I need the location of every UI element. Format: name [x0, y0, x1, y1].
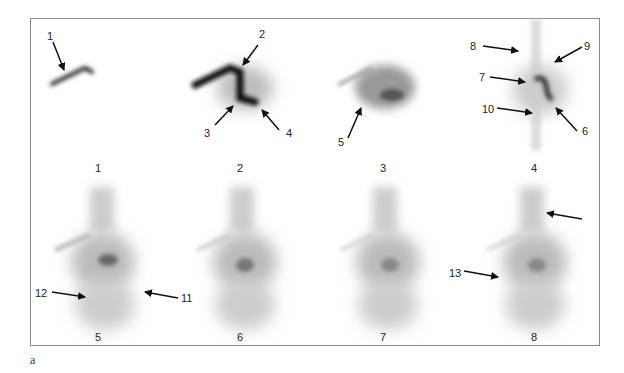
frame-number: 7	[380, 331, 386, 343]
frame-number: 1	[95, 162, 101, 174]
injected-vein-activity	[52, 68, 92, 84]
arrow-2	[243, 45, 258, 65]
annotation-label: 1	[47, 30, 53, 42]
arrow-3	[215, 106, 233, 125]
frame-number: 8	[531, 331, 537, 343]
lung-activity	[355, 65, 415, 109]
annotation-label: 11	[181, 292, 192, 304]
arrow-11	[145, 292, 178, 298]
arrow-unlabeled	[547, 213, 582, 219]
panel-label: a	[30, 353, 35, 368]
annotation-label: 8	[470, 40, 476, 52]
frame-number: 3	[380, 162, 386, 174]
frame-number: 6	[237, 331, 243, 343]
scan-frame-6	[197, 187, 277, 330]
arrow-9	[555, 47, 582, 62]
frame-number: 2	[237, 162, 243, 174]
annotation-label: 13	[449, 267, 461, 279]
lung-activity	[512, 65, 568, 115]
scintigraphy-figure: 1 2 3 4 5 6 7 8 9 10 11 12 13 1 2 3 4 5 …	[0, 0, 624, 373]
scan-frame-4	[512, 20, 568, 150]
scan-frame-8	[487, 187, 567, 330]
scan-frame-1	[52, 68, 92, 84]
annotation-label: 7	[479, 71, 485, 83]
scan-frame-7	[340, 187, 420, 330]
arrow-6	[556, 108, 577, 131]
annotation-label: 10	[482, 103, 494, 115]
annotation-label: 5	[338, 136, 344, 148]
arrow-13	[464, 271, 498, 277]
arrow-1	[53, 42, 64, 70]
annotation-label: 6	[582, 125, 588, 137]
scan-frame-3	[338, 65, 415, 109]
annotation-label: 4	[286, 127, 292, 139]
annotation-label: 12	[35, 287, 47, 299]
arrow-8	[483, 46, 518, 51]
heart-activity	[380, 89, 404, 101]
scan-frame-2	[195, 66, 273, 110]
annotation-label: 3	[204, 127, 210, 139]
annotation-label: 9	[584, 40, 590, 52]
annotation-label: 2	[259, 28, 265, 40]
scan-frame-5	[55, 187, 135, 330]
frame-number: 5	[95, 331, 101, 343]
arrow-5	[348, 108, 361, 138]
frame-number: 4	[531, 162, 537, 174]
arrow-4	[262, 110, 279, 130]
